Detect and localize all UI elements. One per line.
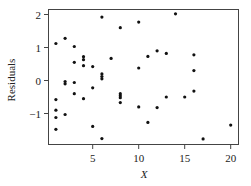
data-point — [73, 92, 76, 95]
data-point — [174, 12, 177, 15]
data-point — [146, 121, 149, 124]
data-point — [54, 98, 57, 101]
data-point — [156, 106, 159, 109]
data-point — [91, 125, 94, 128]
data-point — [146, 55, 149, 58]
data-point — [54, 42, 57, 45]
data-point — [82, 97, 85, 100]
y-tick-label: −1 — [29, 108, 41, 120]
data-point — [156, 49, 159, 52]
data-point — [192, 53, 195, 56]
x-tick-label: 20 — [225, 152, 237, 164]
data-point — [54, 128, 57, 131]
data-point — [137, 105, 140, 108]
y-tick-label: 0 — [36, 75, 42, 87]
data-point — [110, 57, 113, 60]
data-point — [137, 66, 140, 69]
data-point — [73, 61, 76, 64]
data-point — [119, 26, 122, 29]
data-point — [54, 109, 57, 112]
data-point — [165, 52, 168, 55]
data-point — [100, 16, 103, 19]
y-axis: 2 1 0 −1 Residuals — [5, 9, 49, 120]
data-point — [64, 113, 67, 116]
data-point — [73, 81, 76, 84]
x-tick-label: 5 — [90, 152, 96, 164]
data-point — [192, 90, 195, 93]
data-point — [165, 95, 168, 98]
data-point — [100, 137, 103, 140]
data-point — [82, 58, 85, 61]
y-axis-label: Residuals — [5, 59, 17, 102]
residual-scatter-plot: 2 1 0 −1 Residuals 5 10 15 20 X — [0, 0, 251, 186]
data-point — [202, 137, 205, 140]
data-point — [137, 21, 140, 24]
data-point — [64, 37, 67, 40]
data-point — [82, 64, 85, 67]
data-point — [73, 45, 76, 48]
data-point — [119, 101, 122, 104]
data-point — [91, 86, 94, 89]
y-tick-label: 2 — [36, 9, 42, 21]
data-point — [64, 82, 67, 85]
plot-frame — [49, 10, 239, 145]
x-tick-label: 10 — [133, 152, 145, 164]
data-point — [91, 65, 94, 68]
data-point — [229, 124, 232, 127]
x-axis: 5 10 15 20 X — [90, 145, 237, 181]
data-point — [82, 55, 85, 58]
data-point — [183, 95, 186, 98]
data-points — [54, 12, 232, 140]
x-axis-label: X — [140, 168, 149, 180]
y-tick-label: 1 — [36, 42, 42, 54]
data-point — [54, 116, 57, 119]
data-point — [119, 96, 122, 99]
x-tick-label: 15 — [179, 152, 191, 164]
data-point — [100, 77, 103, 80]
data-point — [192, 69, 195, 72]
